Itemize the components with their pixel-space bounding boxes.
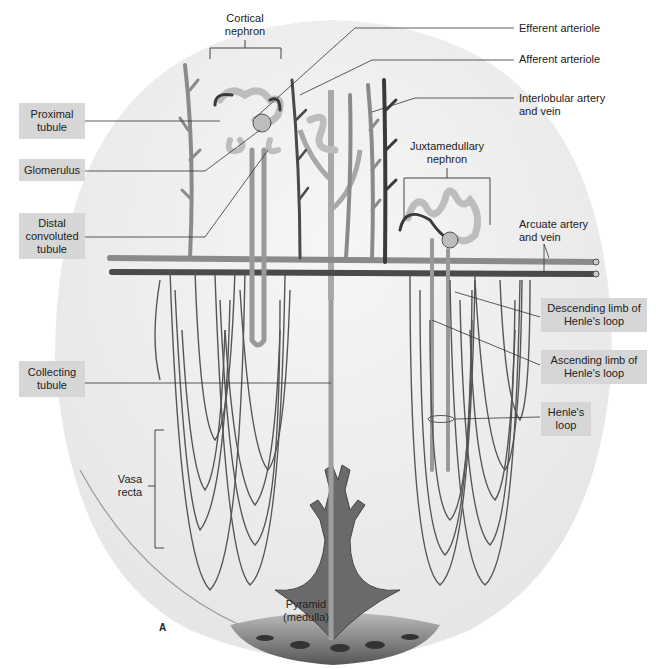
label-arcuate-artery-vein: Arcuate artery and vein bbox=[519, 218, 588, 244]
label-efferent-arteriole: Efferent arteriole bbox=[519, 22, 600, 35]
label-vasa-recta: Vasa recta bbox=[114, 473, 146, 499]
label-afferent-arteriole: Afferent arteriole bbox=[519, 53, 600, 66]
label-cortical-nephron: Cortical nephron bbox=[222, 12, 268, 38]
label-text: Distal bbox=[38, 217, 66, 230]
label-interlobular-artery-vein: Interlobular artery and vein bbox=[519, 92, 605, 118]
label-text: recta bbox=[114, 486, 146, 499]
label-text: tubule bbox=[37, 379, 67, 392]
label-text: Pyramid bbox=[281, 598, 331, 611]
label-text: nephron bbox=[407, 153, 487, 166]
label-text: Henle's loop bbox=[564, 367, 624, 380]
label-text: Vasa bbox=[114, 473, 146, 486]
label-text: Ascending limb of bbox=[551, 354, 638, 367]
label-text: Juxtamedullary bbox=[407, 140, 487, 153]
label-text: tubule bbox=[37, 121, 67, 134]
label-collecting-tubule: Collecting tubule bbox=[19, 361, 85, 397]
label-text: Descending limb of bbox=[547, 302, 641, 315]
label-henles-loop: Henle's loop bbox=[541, 402, 591, 436]
label-text: Cortical bbox=[222, 12, 268, 25]
label-pyramid-medulla: Pyramid (medulla) bbox=[281, 598, 331, 624]
label-juxtamedullary-nephron: Juxtamedullary nephron bbox=[407, 140, 487, 166]
label-glomerulus: Glomerulus bbox=[19, 159, 85, 181]
label-descending-limb: Descending limb of Henle's loop bbox=[541, 298, 647, 332]
panel-letter: A bbox=[159, 621, 166, 634]
label-text: convoluted bbox=[25, 230, 78, 243]
label-text: tubule bbox=[37, 243, 67, 256]
label-text: Proximal bbox=[31, 108, 74, 121]
label-proximal-tubule: Proximal tubule bbox=[19, 103, 85, 139]
label-ascending-limb: Ascending limb of Henle's loop bbox=[541, 350, 647, 384]
label-distal-convoluted-tubule: Distal convoluted tubule bbox=[19, 213, 85, 259]
label-text: Henle's loop bbox=[564, 315, 624, 328]
label-text: Henle's bbox=[548, 406, 584, 419]
label-text: Collecting bbox=[28, 366, 76, 379]
label-text: nephron bbox=[222, 25, 268, 38]
label-text: Interlobular artery bbox=[519, 92, 605, 105]
label-text: Glomerulus bbox=[24, 164, 80, 177]
label-text: (medulla) bbox=[281, 611, 331, 624]
label-text: and vein bbox=[519, 105, 605, 118]
label-text: and vein bbox=[519, 231, 588, 244]
label-text: loop bbox=[556, 419, 577, 432]
label-text: Arcuate artery bbox=[519, 218, 588, 231]
